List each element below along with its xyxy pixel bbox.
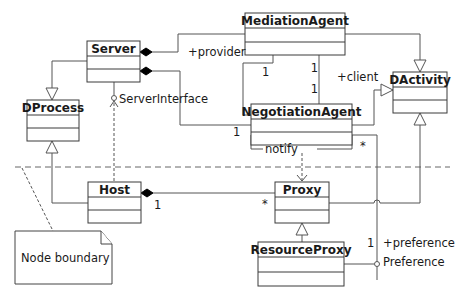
class-name: Proxy	[283, 183, 322, 197]
mediation-dactivity-generalization	[345, 34, 420, 60]
class-server[interactable]: Server	[87, 41, 140, 82]
negotiation-preference-association	[352, 135, 377, 280]
note-text: Node boundary	[21, 251, 110, 265]
class-resource-proxy[interactable]: ResourceProxy	[251, 242, 352, 286]
multiplicity: 1	[233, 125, 240, 139]
class-dactivity[interactable]: DActivity	[389, 72, 451, 113]
notify-label: notify	[265, 142, 298, 156]
class-proxy[interactable]: Proxy	[275, 182, 329, 223]
generalization-arrow-icon	[296, 223, 308, 235]
note-anchor-line	[22, 168, 53, 231]
class-name: NegotiationAgent	[242, 105, 362, 119]
role-client-label: +client	[337, 70, 379, 84]
interface-lollipop-icon	[112, 96, 117, 101]
role-provider-label: +provider	[188, 45, 246, 59]
generalization-arrow-icon	[414, 113, 426, 125]
composition-diamond-icon	[141, 189, 153, 197]
composition-diamond-icon	[140, 67, 152, 75]
generalization-arrow-icon	[46, 88, 58, 100]
host-dprocess-generalization	[52, 153, 88, 203]
class-negotiation-agent[interactable]: NegotiationAgent	[242, 104, 362, 145]
uml-diagram-canvas: Server MediationAgent DActivity DProcess…	[0, 0, 462, 300]
class-name: MediationAgent	[241, 14, 349, 28]
class-host[interactable]: Host	[88, 182, 141, 223]
class-name: ResourceProxy	[251, 243, 352, 257]
note-node-boundary[interactable]: Node boundary	[15, 231, 112, 284]
proxy-dactivity-generalization-2	[380, 125, 420, 203]
multiplicity: *	[262, 197, 268, 211]
generalization-arrow-icon	[414, 60, 426, 72]
class-name: Host	[99, 183, 130, 197]
multiplicity: 1	[367, 236, 374, 250]
multiplicity: 1	[154, 198, 161, 212]
generalization-arrow-icon	[46, 141, 58, 153]
interface-lollipop-icon	[375, 262, 380, 267]
multiplicity: 1	[311, 82, 318, 96]
class-name: DActivity	[389, 73, 451, 87]
multiplicity: 1	[262, 65, 269, 79]
class-dprocess[interactable]: DProcess	[22, 100, 84, 141]
composition-diamond-icon	[140, 48, 152, 56]
class-mediation-agent[interactable]: MediationAgent	[241, 13, 349, 55]
multiplicity: *	[360, 139, 366, 153]
class-name: Server	[91, 42, 136, 56]
multiplicity: 1	[311, 61, 318, 75]
server-interface-label: ServerInterface	[119, 92, 208, 106]
class-name: DProcess	[22, 101, 84, 115]
preference-interface-label: Preference	[383, 255, 445, 269]
server-dprocess-generalization	[52, 61, 87, 88]
role-preference-label: +preference	[383, 236, 455, 250]
